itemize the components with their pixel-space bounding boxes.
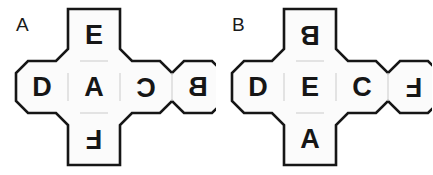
face-letter-far-right-face: F [406,72,423,102]
face-letter-center-face: A [84,72,104,102]
face-letter-center-face: E [301,72,319,102]
figure-a-net: EDACBF [0,0,216,175]
face-letter-bottom-face: F [86,124,103,154]
face-letter-bottom-face: A [300,124,320,154]
face-letter-left-face: D [32,72,52,102]
face-letter-left-face: D [248,72,268,102]
figure-a: A EDACBF [0,0,216,175]
face-letter-far-right-face: B [188,72,208,102]
figure-b-net: BDECFA [216,0,432,175]
face-letter-right-face: C [352,72,372,102]
face-letter-right-face: C [136,72,156,102]
face-letter-top-face: B [300,20,320,50]
face-letter-top-face: E [85,20,103,50]
diagram-canvas: A EDACBF B BDECFA [0,0,433,175]
figure-b: B BDECFA [216,0,432,175]
